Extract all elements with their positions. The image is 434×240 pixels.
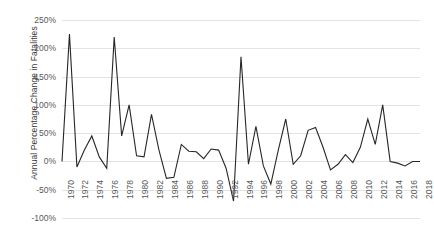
x-axis-tick-label: 1974 <box>95 180 105 199</box>
y-axis-tick-label: 150% <box>22 72 56 82</box>
y-axis-tick-label: 100% <box>22 100 56 110</box>
x-axis-tick-label: 2018 <box>424 180 434 199</box>
x-axis-tick-label: 1972 <box>80 180 90 199</box>
x-axis-tick-label: 2004 <box>319 180 329 199</box>
x-axis-tick-label: 1980 <box>140 180 150 199</box>
x-axis-tick-label: 2014 <box>394 180 404 199</box>
x-axis-tick-label: 2016 <box>409 180 419 199</box>
x-axis-tick-label: 2008 <box>349 180 359 199</box>
x-axis-tick-label: 1994 <box>245 180 255 199</box>
x-axis-tick-label: 2002 <box>304 180 314 199</box>
x-axis-tick-labels: 1970197219741976197819801982198419861988… <box>62 163 420 223</box>
x-axis-tick-label: 2012 <box>379 180 389 199</box>
x-axis-tick-label: 1970 <box>66 180 76 199</box>
x-axis-tick-label: 1982 <box>155 180 165 199</box>
x-axis-tick-label: 1988 <box>200 180 210 199</box>
y-axis-tick-label: -50% <box>22 185 56 195</box>
x-axis-tick-label: 1978 <box>125 180 135 199</box>
x-axis-tick-label: 2006 <box>334 180 344 199</box>
y-axis-tick-label: 200% <box>22 43 56 53</box>
x-axis-tick-label: 2010 <box>364 180 374 199</box>
x-axis-tick-label: 2000 <box>289 180 299 199</box>
x-axis-tick-label: 1996 <box>259 180 269 199</box>
y-axis-tick-labels: 250%200%150%100%50%0%-50%-100% <box>22 0 56 240</box>
y-axis-tick-label: 50% <box>22 128 56 138</box>
y-axis-tick-label: 0% <box>22 156 56 166</box>
y-axis-tick-label: 250% <box>22 15 56 25</box>
x-axis-tick-label: 1976 <box>110 180 120 199</box>
x-axis-tick-label: 1986 <box>185 180 195 199</box>
x-axis-tick-label: 1998 <box>274 180 284 199</box>
x-axis-tick-label: 1992 <box>230 180 240 199</box>
x-axis-tick-label: 1990 <box>215 180 225 199</box>
x-axis-tick-label: 1984 <box>170 180 180 199</box>
y-axis-tick-label: -100% <box>22 213 56 223</box>
